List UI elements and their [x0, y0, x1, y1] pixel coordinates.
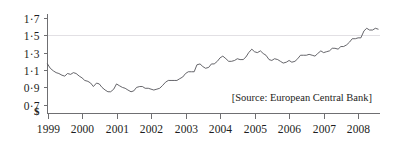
exchange-rate-line	[48, 28, 379, 91]
y-tick-label-2: 1·1	[24, 65, 40, 77]
x-tick-label-8: 2007	[313, 123, 337, 135]
x-tick-label-5: 2004	[209, 123, 233, 135]
x-tick-label-9: 2008	[347, 123, 371, 135]
y-tick-label-5: 1·7	[24, 13, 40, 25]
y-tick-label-3: 1·3	[24, 48, 40, 60]
x-tick-label-3: 2002	[140, 123, 164, 135]
x-tick-label-1: 2000	[71, 123, 95, 135]
y-axis-tick-marks	[44, 19, 48, 106]
y-tick-label-1: 0·9	[24, 82, 40, 94]
x-axis-tick-marks	[49, 114, 359, 119]
x-tick-label-4: 2003	[175, 123, 199, 135]
x-tick-label-7: 2006	[278, 123, 302, 135]
source-attribution: [Source: European Central Bank]	[232, 92, 372, 103]
exchange-rate-chart-figure: 0·70·91·11·31·51·7$ 19992000200120022003…	[0, 0, 394, 154]
y-axis-tick-labels: 0·70·91·11·31·51·7$	[24, 13, 40, 118]
x-tick-label-2: 2001	[106, 123, 130, 135]
x-axis-tick-labels: 1999200020012002200320042005200620072008	[37, 123, 371, 135]
chart-canvas: 0·70·91·11·31·51·7$ 19992000200120022003…	[0, 0, 394, 154]
y-tick-label-4: 1·5	[24, 30, 40, 42]
x-tick-label-0: 1999	[37, 123, 61, 135]
y-axis-currency-label: $	[34, 105, 40, 117]
x-tick-label-6: 2005	[244, 123, 268, 135]
